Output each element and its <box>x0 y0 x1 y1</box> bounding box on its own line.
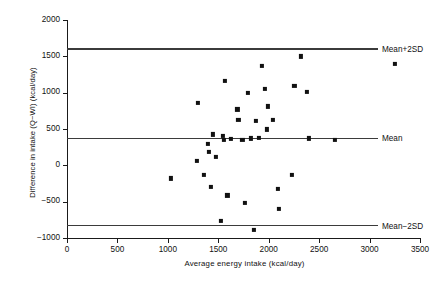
x-tick-label: 3500 <box>411 245 429 254</box>
y-tick-label: −500 <box>42 196 60 205</box>
mean-plus-2sd-line-label: Mean+2SD <box>382 45 423 54</box>
y-tick-mark <box>63 129 67 130</box>
data-point <box>299 54 303 58</box>
x-tick-label: 500 <box>111 245 125 254</box>
data-point <box>248 136 252 140</box>
data-point <box>169 176 173 180</box>
data-point <box>209 185 213 189</box>
data-point <box>196 101 200 105</box>
data-point <box>257 136 261 140</box>
x-tick-label: 2500 <box>310 245 328 254</box>
mean-line-label: Mean <box>382 134 402 143</box>
y-tick-mark <box>63 202 67 203</box>
y-tick-mark <box>63 165 67 166</box>
x-tick-mark <box>420 239 421 243</box>
x-tick-mark <box>370 239 371 243</box>
y-tick-label: −1000 <box>37 233 60 242</box>
y-tick-mark <box>63 56 67 57</box>
data-point <box>229 137 233 141</box>
data-point <box>260 64 264 68</box>
data-point <box>236 118 240 122</box>
x-tick-mark <box>168 239 169 243</box>
mean-plus-2sd-line <box>67 48 378 49</box>
y-tick-label: 0 <box>55 160 60 169</box>
y-tick-label: 2000 <box>42 15 60 24</box>
data-point <box>206 141 210 145</box>
data-point <box>254 119 258 123</box>
x-tick-label: 0 <box>65 245 70 254</box>
data-point <box>393 62 397 66</box>
data-point <box>211 132 215 136</box>
y-tick-label: 1000 <box>42 87 60 96</box>
data-point <box>223 79 227 83</box>
data-point <box>265 127 269 131</box>
y-tick-label: 500 <box>46 124 60 133</box>
data-point <box>251 228 255 232</box>
data-point <box>290 173 294 177</box>
data-point <box>202 173 206 177</box>
data-point <box>307 136 311 140</box>
x-axis-title: Average energy intake (kcal/day) <box>67 259 422 268</box>
x-tick-mark <box>117 239 118 243</box>
x-tick-label: 2000 <box>260 245 278 254</box>
data-point <box>271 117 275 121</box>
data-point <box>263 87 267 91</box>
plot-area: −1000−5000500100015002000 05001000150020… <box>67 20 420 238</box>
y-tick-label: 1500 <box>42 51 60 60</box>
x-tick-label: 3000 <box>360 245 378 254</box>
bland-altman-chart: Difference in intake (Q−WI) (kcal/day) A… <box>0 0 442 282</box>
x-tick-label: 1000 <box>159 245 177 254</box>
data-point <box>240 137 244 141</box>
data-point <box>276 187 280 191</box>
y-tick-mark <box>63 20 67 21</box>
data-point <box>304 89 308 93</box>
x-tick-mark <box>319 239 320 243</box>
data-point <box>277 207 281 211</box>
data-point <box>219 218 223 222</box>
mean-minus-2sd-line <box>67 225 378 226</box>
data-point <box>266 104 270 108</box>
data-point <box>333 138 337 142</box>
data-point <box>292 84 296 88</box>
x-tick-mark <box>269 239 270 243</box>
x-tick-mark <box>67 239 68 243</box>
data-point <box>235 107 239 111</box>
mean-minus-2sd-line-label: Mean−2SD <box>382 221 423 230</box>
y-axis-title: Difference in intake (Q−WI) (kcal/day) <box>28 33 37 233</box>
data-point <box>245 91 249 95</box>
data-point <box>195 159 199 163</box>
data-point <box>207 150 211 154</box>
data-point <box>214 155 218 159</box>
x-tick-mark <box>218 239 219 243</box>
data-point <box>225 193 229 197</box>
x-axis-line <box>67 238 421 239</box>
y-tick-mark <box>63 93 67 94</box>
data-point <box>222 137 226 141</box>
y-axis-line <box>67 20 68 239</box>
x-tick-label: 1500 <box>209 245 227 254</box>
data-point <box>242 201 246 205</box>
